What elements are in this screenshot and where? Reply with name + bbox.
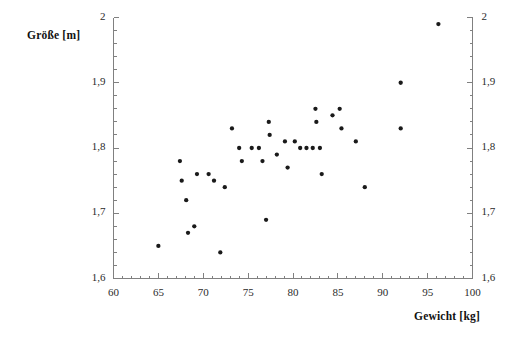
data-point: [230, 126, 234, 130]
data-point: [298, 146, 302, 150]
data-point: [285, 165, 289, 169]
x-tick-label: 65: [138, 286, 178, 298]
data-point: [354, 139, 358, 143]
x-tick-label: 70: [183, 286, 223, 298]
x-tick-label: 90: [363, 286, 403, 298]
data-point: [320, 172, 324, 176]
x-tick-label: 80: [273, 286, 313, 298]
data-markers-layer: [156, 22, 440, 255]
data-point: [156, 244, 160, 248]
data-point: [363, 185, 367, 189]
data-point: [275, 152, 279, 156]
data-point: [313, 107, 317, 111]
y-tick-label-left: 1,9: [66, 75, 106, 87]
data-point: [318, 146, 322, 150]
data-point: [260, 159, 264, 163]
x-axis-title: Gewicht [kg]: [414, 310, 480, 322]
data-point: [192, 224, 196, 228]
data-point: [304, 146, 308, 150]
y-tick-label-left: 1,8: [66, 140, 106, 152]
data-point: [293, 139, 297, 143]
x-tick-label: 100: [453, 286, 493, 298]
data-point: [223, 185, 227, 189]
y-axis-title: Größe [m]: [27, 29, 80, 41]
data-point: [267, 120, 271, 124]
data-point: [250, 146, 254, 150]
data-point: [180, 178, 184, 182]
x-tick-label: 95: [408, 286, 448, 298]
data-point: [436, 22, 440, 26]
x-tick-label: 75: [228, 286, 268, 298]
y-tick-label-left: 1,6: [66, 271, 106, 283]
data-point: [186, 231, 190, 235]
y-tick-label-right: 1,9: [482, 75, 522, 87]
y-tick-label-right: 2: [482, 10, 522, 22]
data-point: [257, 146, 261, 150]
data-point: [311, 146, 315, 150]
y-tick-label-right: 1,8: [482, 140, 522, 152]
data-point: [338, 107, 342, 111]
y-tick-label-right: 1,7: [482, 205, 522, 217]
data-point: [206, 172, 210, 176]
data-point: [264, 218, 268, 222]
scatter-plot-figure: Größe [m] Gewicht [kg] 1,61,61,71,71,81,…: [0, 0, 530, 345]
data-point: [339, 126, 343, 130]
data-point: [212, 178, 216, 182]
data-point: [314, 120, 318, 124]
data-point: [268, 133, 272, 137]
x-tick-label: 60: [94, 286, 134, 298]
data-point: [240, 159, 244, 163]
data-point: [184, 198, 188, 202]
data-point: [237, 146, 241, 150]
x-tick-label: 85: [318, 286, 358, 298]
data-point: [283, 139, 287, 143]
data-point: [399, 81, 403, 85]
axis-layer: [114, 18, 473, 279]
data-point: [399, 126, 403, 130]
y-tick-label-left: 2: [66, 10, 106, 22]
y-tick-label-right: 1,6: [482, 271, 522, 283]
data-point: [178, 159, 182, 163]
data-point: [195, 172, 199, 176]
data-point: [218, 250, 222, 254]
data-point: [330, 113, 334, 117]
y-tick-label-left: 1,7: [66, 205, 106, 217]
